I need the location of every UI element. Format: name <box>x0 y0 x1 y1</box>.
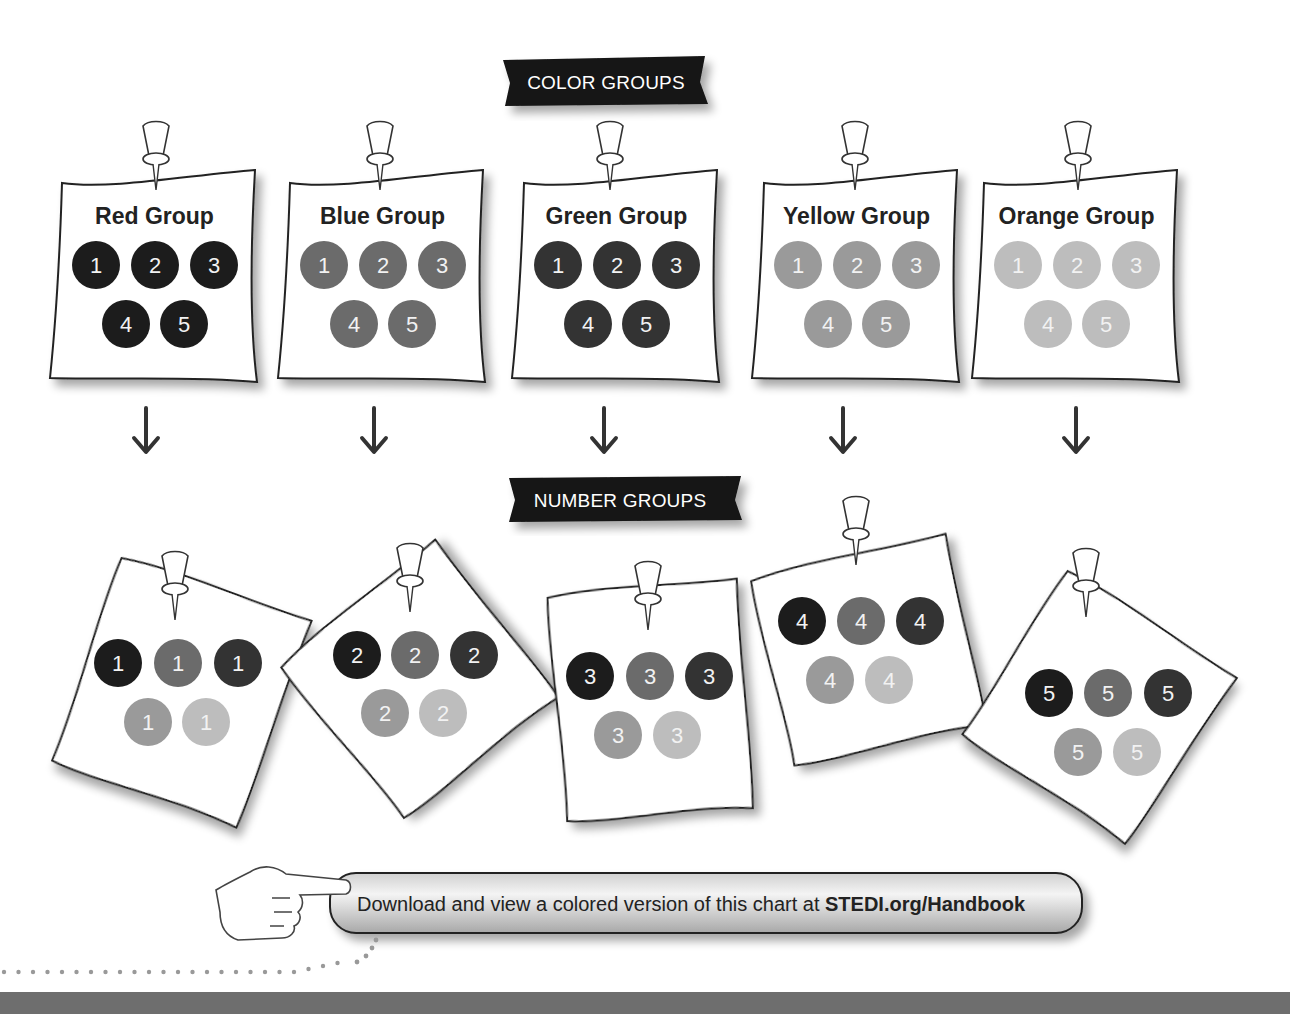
color-groups-label: COLOR GROUPS <box>527 72 685 93</box>
number-dot: 5 <box>160 300 208 348</box>
dot-label: 3 <box>703 664 715 689</box>
dot-label: 5 <box>1043 681 1055 706</box>
dot-label: 4 <box>582 312 594 337</box>
color-group-card: Orange Group12345 <box>972 122 1179 383</box>
dot-label: 4 <box>120 312 132 337</box>
group-title: Yellow Group <box>783 203 930 229</box>
number-dot: 4 <box>806 656 854 704</box>
number-dot: 4 <box>102 300 150 348</box>
number-dot: 2 <box>833 241 881 289</box>
dot-label: 5 <box>406 312 418 337</box>
dot-label: 1 <box>172 651 184 676</box>
color-group-card: Red Group12345 <box>50 122 257 383</box>
dot-label: 3 <box>612 723 624 748</box>
dot-label: 1 <box>142 710 154 735</box>
down-arrow-icon <box>1064 408 1088 452</box>
dot-label: 3 <box>584 664 596 689</box>
dot-label: 1 <box>112 651 124 676</box>
number-dot: 3 <box>594 711 642 759</box>
number-dot: 2 <box>333 631 381 679</box>
number-dot: 3 <box>566 652 614 700</box>
number-dot: 4 <box>1024 300 1072 348</box>
dot-label: 2 <box>851 253 863 278</box>
handbook-link[interactable]: STEDI.org/Handbook <box>825 893 1026 915</box>
dot-label: 5 <box>178 312 190 337</box>
number-group-card: 44444 <box>749 497 987 768</box>
dotted-trail <box>2 938 379 975</box>
number-dot: 2 <box>450 631 498 679</box>
down-arrow-icon <box>592 408 616 452</box>
number-dot: 3 <box>892 241 940 289</box>
number-dot: 4 <box>330 300 378 348</box>
number-group-card: 33333 <box>546 562 754 823</box>
number-groups-row: 1111122222333334444455555 <box>47 497 1238 846</box>
dot-label: 4 <box>1042 312 1054 337</box>
number-dot: 3 <box>652 241 700 289</box>
dot-label: 2 <box>611 253 623 278</box>
dot-label: 1 <box>90 253 102 278</box>
number-dot: 5 <box>1084 669 1132 717</box>
dot-label: 4 <box>796 609 808 634</box>
number-dot: 1 <box>72 241 120 289</box>
number-dot: 3 <box>626 652 674 700</box>
dot-label: 2 <box>379 701 391 726</box>
number-dot: 2 <box>419 689 467 737</box>
dot-label: 2 <box>1071 253 1083 278</box>
dot-label: 3 <box>208 253 220 278</box>
diagram-canvas: COLOR GROUPS Red Group12345Blue Group123… <box>0 0 1290 1016</box>
group-title: Blue Group <box>320 203 445 229</box>
callout-text: Download and view a colored version of t… <box>357 893 1026 915</box>
number-groups-banner: NUMBER GROUPS <box>509 476 742 522</box>
number-group-card: 22222 <box>277 539 560 822</box>
download-callout[interactable]: Download and view a colored version of t… <box>330 873 1082 933</box>
number-group-card: 55555 <box>958 549 1238 846</box>
number-dot: 1 <box>534 241 582 289</box>
down-arrow-icon <box>831 408 855 452</box>
number-dot: 2 <box>593 241 641 289</box>
dot-label: 1 <box>318 253 330 278</box>
dot-label: 4 <box>914 609 926 634</box>
callout-message: Download and view a colored version of t… <box>357 893 825 915</box>
group-title: Orange Group <box>999 203 1155 229</box>
number-dot: 3 <box>190 241 238 289</box>
number-dot: 4 <box>804 300 852 348</box>
down-arrow-icon <box>134 408 158 452</box>
dot-label: 3 <box>671 723 683 748</box>
number-dot: 4 <box>778 597 826 645</box>
dot-label: 5 <box>1100 312 1112 337</box>
color-group-card: Green Group12345 <box>512 122 719 383</box>
color-groups-row: Red Group12345Blue Group12345Green Group… <box>50 122 1179 383</box>
dot-label: 3 <box>910 253 922 278</box>
dot-label: 1 <box>200 710 212 735</box>
dot-label: 3 <box>1130 253 1142 278</box>
dot-label: 5 <box>880 312 892 337</box>
number-dot: 3 <box>1112 241 1160 289</box>
number-dot: 1 <box>182 698 230 746</box>
dot-label: 1 <box>232 651 244 676</box>
dot-label: 4 <box>824 668 836 693</box>
arrows-row <box>134 408 1088 452</box>
dot-label: 4 <box>822 312 834 337</box>
number-dot: 5 <box>388 300 436 348</box>
number-dot: 5 <box>1025 669 1073 717</box>
number-groups-label: NUMBER GROUPS <box>534 490 707 511</box>
dot-label: 4 <box>883 668 895 693</box>
number-dot: 2 <box>1053 241 1101 289</box>
color-groups-banner: COLOR GROUPS <box>503 56 708 106</box>
color-group-card: Blue Group12345 <box>278 122 485 383</box>
number-dot: 3 <box>685 652 733 700</box>
number-dot: 2 <box>131 241 179 289</box>
number-dot: 1 <box>994 241 1042 289</box>
dot-label: 2 <box>409 643 421 668</box>
number-dot: 5 <box>1082 300 1130 348</box>
number-dot: 5 <box>1144 669 1192 717</box>
dot-label: 2 <box>468 643 480 668</box>
group-title: Red Group <box>95 203 214 229</box>
number-group-card: 11111 <box>47 552 313 830</box>
dot-label: 2 <box>377 253 389 278</box>
number-dot: 3 <box>418 241 466 289</box>
number-dot: 1 <box>154 639 202 687</box>
group-title: Green Group <box>546 203 688 229</box>
dot-label: 2 <box>149 253 161 278</box>
number-dot: 1 <box>300 241 348 289</box>
